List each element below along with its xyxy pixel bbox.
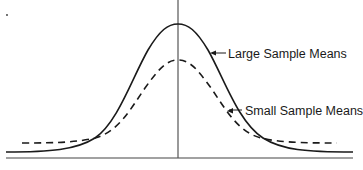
large-sample-means-annotation: Large Sample Means	[210, 47, 347, 61]
small-sample-means-label: Small Sample Means	[245, 104, 363, 118]
small-sample-means-annotation: Small Sample Means	[227, 104, 363, 118]
large-sample-means-label: Large Sample Means	[228, 47, 347, 61]
stray-dot	[6, 14, 8, 16]
sampling-distribution-chart: Large Sample Means Small Sample Means	[0, 0, 363, 170]
large-sample-means-curve	[6, 24, 353, 152]
small-sample-means-curve	[22, 60, 337, 143]
